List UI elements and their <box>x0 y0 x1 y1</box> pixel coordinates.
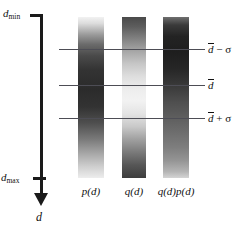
gradient-bar-q <box>122 17 146 178</box>
stat-line-mean <box>59 85 205 86</box>
stat-label-plus-sigma: d + σ <box>208 112 231 124</box>
distance-distribution-figure: dmin dmax d d − σ d d + σ p(d) q(d) q(d)… <box>0 0 245 232</box>
stat-line-minus-sigma <box>59 49 205 50</box>
stat-line-plus-sigma <box>59 118 205 119</box>
gradient-bar-qp <box>163 17 189 178</box>
axis-label-dmax: dmax <box>1 172 19 183</box>
axis-tick-dmin <box>30 14 43 17</box>
axis-tick-dmax <box>33 177 46 180</box>
stat-label-minus-sigma: d − σ <box>208 43 231 55</box>
axis-label-variable: d <box>36 211 42 223</box>
axis-shaft <box>40 14 43 200</box>
bar-caption-q: q(d) <box>115 186 153 197</box>
bar-caption-p: p(d) <box>72 186 110 197</box>
axis-label-dmin: dmin <box>3 8 20 19</box>
stat-label-mean: d <box>208 79 214 91</box>
gradient-bar-p <box>78 17 104 178</box>
axis-arrowhead-icon <box>34 193 48 206</box>
bar-caption-qp: q(d)p(d) <box>150 186 202 197</box>
